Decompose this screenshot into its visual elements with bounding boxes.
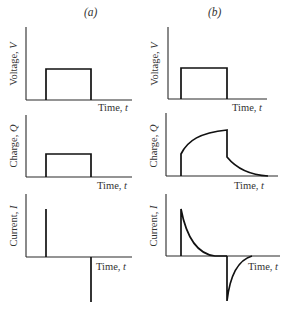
- panel-b-current: Current, I Time, t: [148, 194, 280, 301]
- panel-a-charge: Charge, Q Time, t: [8, 115, 132, 191]
- y-axis-label: Charge, Q: [8, 124, 19, 167]
- y-axis-label: Current, I: [148, 205, 159, 246]
- y-axis-label: Voltage, V: [149, 41, 160, 86]
- charge-curve: [181, 130, 268, 176]
- x-axis-label: Time, t: [248, 261, 279, 272]
- x-axis-label: Time, t: [232, 102, 263, 113]
- x-axis-label: Time, t: [97, 180, 128, 191]
- panel-b-charge: Charge, Q Time, t: [148, 113, 278, 191]
- voltage-pulse: [181, 68, 227, 99]
- panel-a-voltage: Voltage, V Time, t: [8, 27, 132, 113]
- voltage-pulse: [46, 69, 91, 100]
- current-decay-positive: [181, 209, 227, 256]
- x-axis-label: Time, t: [98, 102, 129, 113]
- column-label-b: (b): [208, 6, 222, 19]
- panel-b-voltage: Voltage, V Time, t: [149, 27, 267, 113]
- y-axis-label: Voltage, V: [8, 41, 19, 86]
- charge-pulse: [46, 154, 91, 177]
- diagram-canvas: (a) (b) Voltage, V Time, t Charge, Q Tim…: [0, 0, 290, 314]
- y-axis-label: Charge, Q: [148, 124, 159, 167]
- column-label-a: (a): [84, 6, 98, 19]
- panel-a-current: Current, I Time, t: [8, 194, 132, 302]
- y-axis-label: Current, I: [8, 205, 19, 246]
- x-axis-label: Time, t: [234, 180, 265, 191]
- x-axis-label: Time, t: [96, 261, 127, 272]
